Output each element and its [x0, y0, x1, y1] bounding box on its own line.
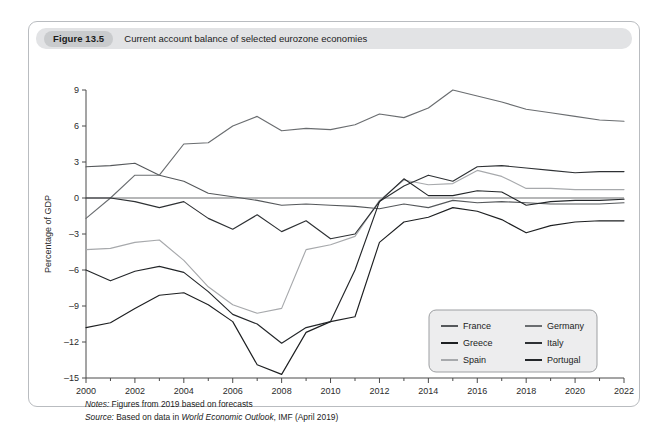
y-tick-label: –15 [64, 373, 79, 383]
y-tick-label: 3 [74, 157, 79, 167]
series-line-germany [86, 90, 624, 218]
x-tick-label: 2002 [125, 386, 145, 396]
x-tick-label: 2006 [223, 386, 243, 396]
series-line-spain [86, 170, 624, 313]
legend-label-germany[interactable]: Germany [547, 321, 585, 331]
x-tick-label: 2012 [369, 386, 389, 396]
x-tick-label: 2020 [565, 386, 585, 396]
line-chart: 9630–3–6–9–12–15200020022004200620082010… [29, 56, 641, 401]
legend-label-italy[interactable]: Italy [547, 338, 564, 348]
x-tick-label: 2010 [321, 386, 341, 396]
x-tick-label: 2004 [174, 386, 194, 396]
x-tick-label: 2014 [418, 386, 438, 396]
x-tick-label: 2016 [467, 386, 487, 396]
y-tick-label: –6 [69, 265, 79, 275]
source-text-before: Based on data in [116, 412, 179, 422]
y-tick-label: 6 [74, 121, 79, 131]
x-tick-label: 2008 [272, 386, 292, 396]
x-tick-label: 2000 [76, 386, 96, 396]
notes-prefix: Notes: [85, 399, 109, 409]
notes-block: Notes: Figures from 2019 based on foreca… [85, 398, 605, 424]
figure-number-badge: Figure 13.5 [44, 31, 113, 47]
notes-line: Notes: Figures from 2019 based on foreca… [85, 398, 605, 411]
figure-card: Figure 13.5 Current account balance of s… [28, 21, 640, 407]
legend-label-portugal[interactable]: Portugal [547, 355, 581, 365]
x-tick-label: 2018 [516, 386, 536, 396]
y-tick-label: –9 [69, 301, 79, 311]
figure-header: Figure 13.5 Current account balance of s… [36, 28, 632, 49]
source-line: Source: Based on data in World Economic … [85, 411, 605, 424]
chart-plot-area: 9630–3–6–9–12–15200020022004200620082010… [29, 56, 641, 401]
y-axis-title: Percentage of GDP [43, 195, 53, 273]
notes-text: Figures from 2019 based on forecasts [112, 399, 253, 409]
y-tick-label: –12 [64, 337, 79, 347]
y-tick-label: 0 [74, 193, 79, 203]
legend-label-greece[interactable]: Greece [463, 338, 493, 348]
legend-label-spain[interactable]: Spain [463, 355, 486, 365]
source-publication: World Economic Outlook [181, 412, 273, 422]
source-text-after: , IMF (April 2019) [274, 412, 339, 422]
x-tick-label: 2022 [614, 386, 634, 396]
figure-title: Current account balance of selected euro… [124, 33, 367, 44]
y-axis-title-text: Percentage of GDP [43, 195, 53, 273]
y-tick-label: 9 [74, 85, 79, 95]
chart-legend[interactable]: FranceGermanyGreeceItalySpainPortugal [429, 310, 597, 372]
y-tick-label: –3 [69, 229, 79, 239]
legend-label-france[interactable]: France [463, 321, 491, 331]
source-prefix: Source: [85, 412, 114, 422]
